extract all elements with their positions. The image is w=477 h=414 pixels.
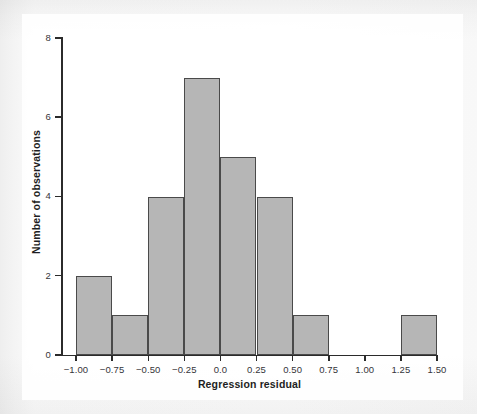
x-axis-tick-label: 1.50: [412, 364, 462, 377]
y-axis-tick-label: 8: [24, 32, 51, 44]
histogram-bar: [76, 276, 112, 355]
x-axis-tick: [75, 355, 77, 361]
x-axis-tick: [364, 355, 366, 361]
histogram-bar: [184, 78, 220, 355]
histogram-plot-area: 0 2 4 6 8 −1.00 −0.75 −0.5: [0, 0, 477, 414]
histogram-bar: [220, 157, 256, 355]
histogram-bar: [257, 197, 293, 356]
y-tick-text: 0: [24, 349, 51, 360]
histogram-bar: [293, 315, 329, 355]
x-axis-tick: [148, 355, 150, 361]
x-axis-tick: [256, 355, 258, 361]
x-axis-title: Regression residual: [61, 378, 438, 390]
histogram-bar: [148, 197, 184, 356]
y-axis-tick: [55, 116, 61, 118]
x-axis-tick: [292, 355, 294, 361]
y-axis-tick: [55, 275, 61, 277]
y-axis-line: [61, 37, 63, 356]
x-axis-tick: [220, 355, 222, 361]
x-axis-tick: [328, 355, 330, 361]
x-axis-line: [61, 355, 438, 357]
x-tick-text: 1.50: [412, 364, 462, 375]
figure-root: 0 2 4 6 8 −1.00 −0.75 −0.5: [0, 0, 477, 414]
y-tick-text: 8: [24, 32, 51, 43]
y-axis-title: Number of observations: [30, 92, 42, 292]
y-axis-tick-label: 0: [24, 349, 51, 361]
y-axis-tick: [55, 37, 61, 39]
histogram-bar: [112, 315, 148, 355]
x-axis-tick: [400, 355, 402, 361]
y-axis-tick: [55, 354, 61, 356]
x-axis-tick: [436, 355, 438, 361]
x-axis-tick: [184, 355, 186, 361]
histogram-bar: [401, 315, 437, 355]
x-axis-tick: [111, 355, 113, 361]
y-axis-tick: [55, 196, 61, 198]
